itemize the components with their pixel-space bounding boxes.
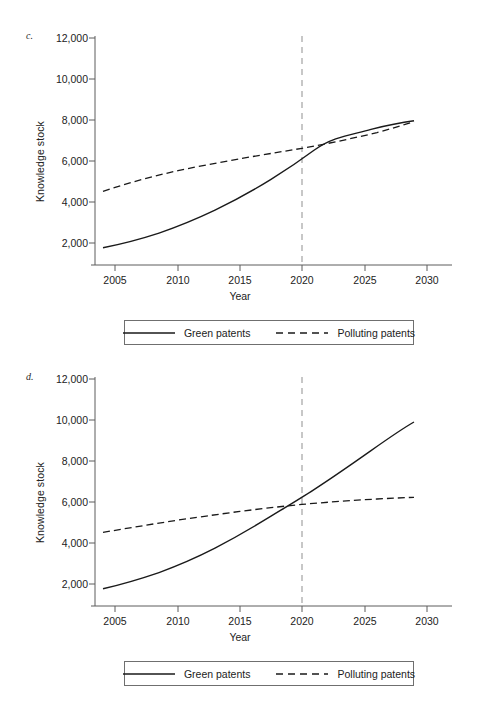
x-tick-label: 2010 [166,274,189,286]
x-tick-label: 2005 [103,615,126,627]
x-tick-label: 2030 [415,615,438,627]
legend-swatch-solid [123,329,175,337]
series-green-patents-c [103,121,414,248]
series-polluting-patents-c [103,122,414,192]
legend-swatch-dashed [276,329,328,337]
x-tick-label: 2010 [166,615,189,627]
x-tick-label: 2020 [290,274,313,286]
x-axis-label-d: Year [0,631,480,643]
legend-label-green-patents: Green patents [184,327,251,339]
legend-swatch-dashed [276,670,328,678]
series-green-patents-d [103,422,414,589]
x-tick-label: 2020 [290,615,313,627]
x-axis-label-c: Year [0,290,480,302]
x-tick-label: 2025 [353,615,376,627]
legend-entry-green-patents: Green patents [123,668,251,680]
legend-entry-polluting-patents: Polluting patents [276,668,415,680]
legend-swatch-solid [123,670,175,678]
plot-area-d [0,352,480,652]
x-tick-label: 2030 [415,274,438,286]
legend-label-polluting-patents: Polluting patents [337,327,415,339]
x-tick-label: 2005 [103,274,126,286]
legend-entry-green-patents: Green patents [123,327,251,339]
legend-label-green-patents: Green patents [184,668,251,680]
series-polluting-patents-d [103,497,414,532]
legend-entry-polluting-patents: Polluting patents [276,327,415,339]
legend-label-polluting-patents: Polluting patents [337,668,415,680]
chart-panel-c: c. Knowledge stock 12,000 10,000 8,000 6… [0,0,480,352]
x-tick-label: 2025 [353,274,376,286]
x-tick-label: 2015 [228,615,251,627]
legend-d: Green patents Polluting patents [124,661,414,686]
plot-area-c [0,0,480,300]
x-tick-label: 2015 [228,274,251,286]
legend-c: Green patents Polluting patents [124,320,414,345]
chart-panel-d: d. Knowledge stock 12,000 10,000 8,000 6… [0,352,480,704]
